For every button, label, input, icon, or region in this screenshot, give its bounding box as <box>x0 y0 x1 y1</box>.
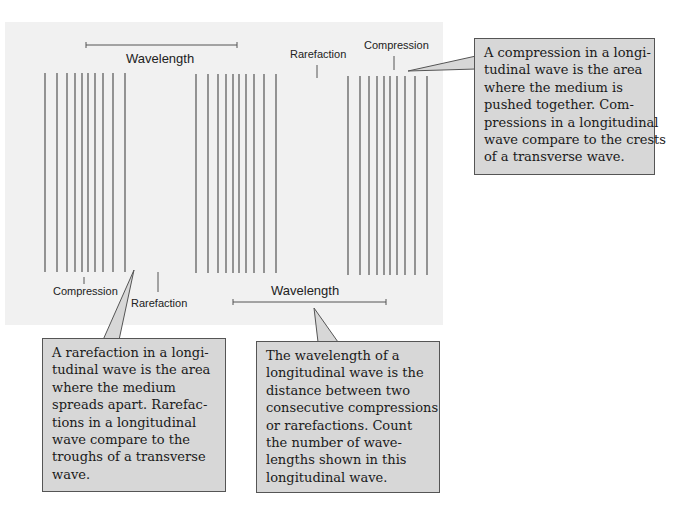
wavelength-callout: The wavelength of a longitudinal wave is… <box>256 341 440 493</box>
callout-line: tudinal wave is the area <box>484 61 646 78</box>
compression-label-top: Compression <box>364 39 429 51</box>
callout-line: where the medium is <box>484 79 646 96</box>
callout-line: spreads apart. Rarefac- <box>52 396 217 413</box>
callout-line: distance between two <box>266 382 431 399</box>
wavelength-label-bottom: Wavelength <box>271 283 339 298</box>
callout-line: wave compare to the crests <box>484 131 646 148</box>
callout-line: tudinal wave is the area <box>52 361 217 378</box>
compression-label-bottom: Compression <box>53 285 118 297</box>
callout-line: troughs of a transverse <box>52 448 217 465</box>
wavelength-bracket-bottom <box>233 299 386 305</box>
callout-line: tions in a longitudinal <box>52 414 217 431</box>
callout-line: A rarefaction in a longi- <box>52 344 217 361</box>
callout-line: The wavelength of a <box>266 347 431 364</box>
rarefaction-callout: A rarefaction in a longi- tudinal wave i… <box>42 338 226 492</box>
callout-line: pressions in a longitudinal <box>484 114 646 131</box>
callout-line: wave. <box>52 466 217 483</box>
wavelength-bracket-top <box>86 42 237 48</box>
callout-line: the number of wave- <box>266 434 431 451</box>
wave-lines <box>45 73 427 275</box>
rarefaction-label-bottom: Rarefaction <box>131 297 187 309</box>
callout-line: longitudinal wave is the <box>266 364 431 381</box>
compression-callout-pointer <box>408 56 476 71</box>
compression-callout: A compression in a longi- tudinal wave i… <box>474 38 655 175</box>
callout-line: wave compare to the <box>52 431 217 448</box>
callout-line: pushed together. Com- <box>484 96 646 113</box>
callout-line: longitudinal wave. <box>266 469 431 486</box>
wavelength-label-top: Wavelength <box>126 51 194 66</box>
rarefaction-callout-pointer <box>103 270 134 340</box>
wavelength-callout-pointer <box>314 308 338 342</box>
callout-line: where the medium <box>52 379 217 396</box>
callout-line: consecutive compressions <box>266 399 431 416</box>
callout-line: lengths shown in this <box>266 451 431 468</box>
rarefaction-label-top: Rarefaction <box>290 48 346 60</box>
callout-line: A compression in a longi- <box>484 44 646 61</box>
callout-line: of a transverse wave. <box>484 148 646 165</box>
callout-line: or rarefactions. Count <box>266 417 431 434</box>
